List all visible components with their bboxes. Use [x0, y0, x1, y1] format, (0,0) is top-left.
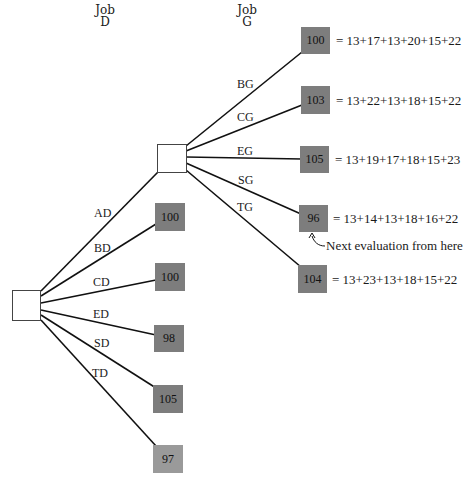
edge-label-cd: CD — [93, 276, 110, 288]
leaf-ed[interactable]: 98 — [154, 325, 184, 352]
equation-bg: = 13+17+13+20+15+22 — [336, 34, 461, 48]
next-evaluation-note: Next evaluation from here — [326, 238, 463, 254]
equation-eg: = 13+19+17+18+15+23 — [335, 153, 460, 167]
header-job-d-line2: D — [85, 16, 125, 28]
edge-label-td: TD — [92, 367, 108, 379]
header-job-g-line2: G — [227, 16, 267, 28]
leaf-sg-value: 96 — [308, 211, 320, 226]
leaf-tg[interactable]: 104 — [298, 265, 327, 293]
leaf-td[interactable]: 97 — [153, 445, 183, 473]
equation-sg: = 13+14+13+18+16+22 — [333, 212, 458, 226]
annotation-arrow — [312, 236, 325, 246]
edge-label-ad: AD — [94, 207, 111, 219]
edge-ad — [41, 172, 158, 291]
leaf-ed-value: 98 — [163, 331, 175, 346]
root-node[interactable] — [12, 290, 41, 321]
leaf-sd-value: 105 — [159, 392, 177, 407]
leaf-bd-value: 100 — [161, 210, 179, 225]
leaf-cg[interactable]: 103 — [301, 86, 330, 114]
leaf-td-value: 97 — [162, 452, 174, 467]
leaf-cd-value: 100 — [161, 270, 179, 285]
edge-bg — [186, 52, 302, 146]
edge-label-sg: SG — [238, 174, 253, 186]
leaf-bg[interactable]: 100 — [301, 27, 330, 54]
leaf-bd[interactable]: 100 — [155, 203, 185, 231]
leaf-cg-value: 103 — [307, 93, 325, 108]
leaf-eg[interactable]: 105 — [300, 146, 329, 173]
edge-label-tg: TG — [237, 201, 253, 213]
leaf-sg[interactable]: 96 — [299, 205, 328, 232]
header-job-d: Job D — [85, 4, 125, 28]
leaf-tg-value: 104 — [304, 272, 322, 287]
leaf-sd[interactable]: 105 — [153, 385, 183, 413]
edge-label-ed: ED — [93, 308, 109, 320]
edge-label-bd: BD — [94, 242, 111, 254]
equation-tg: = 13+23+13+18+15+22 — [332, 273, 457, 287]
header-job-g: Job G — [227, 4, 267, 28]
edge-label-eg: EG — [237, 145, 253, 157]
leaf-eg-value: 105 — [306, 152, 324, 167]
node-ad[interactable] — [157, 144, 187, 173]
edge-label-bg: BG — [237, 78, 254, 90]
leaf-cd[interactable]: 100 — [155, 263, 185, 291]
edge-label-sd: SD — [94, 337, 109, 349]
equation-cg: = 13+22+13+18+15+22 — [336, 94, 461, 108]
leaf-bg-value: 100 — [307, 33, 325, 48]
edge-label-cg: CG — [237, 111, 254, 123]
